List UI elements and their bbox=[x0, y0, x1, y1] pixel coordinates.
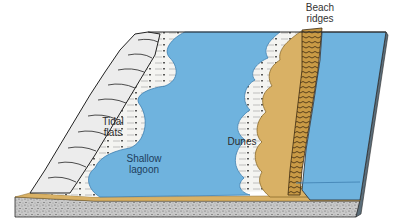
label-beach-ridges: Beach ridges bbox=[300, 2, 340, 24]
label-shallow-lagoon: Shallow lagoon bbox=[122, 153, 166, 175]
coastal-block-diagram bbox=[0, 0, 401, 224]
label-dunes: Dunes bbox=[224, 136, 260, 147]
label-tidal-flats: Tidal flats bbox=[95, 116, 131, 138]
